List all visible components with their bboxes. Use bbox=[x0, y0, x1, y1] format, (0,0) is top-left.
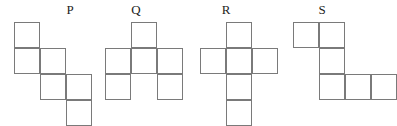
shape-label-s: S bbox=[312, 3, 332, 16]
cell-s-r2c3 bbox=[371, 74, 397, 100]
cell-s-r1c1 bbox=[319, 48, 345, 74]
cell-s-r2c1 bbox=[319, 74, 345, 100]
cell-s-r0c0 bbox=[293, 22, 319, 48]
cell-s-r0c1 bbox=[319, 22, 345, 48]
cell-s-r2c2 bbox=[345, 74, 371, 100]
